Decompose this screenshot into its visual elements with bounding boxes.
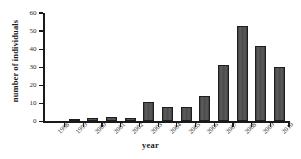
x-tick: 2009: [270, 123, 271, 127]
x-tick: 2008: [251, 123, 252, 127]
bar: [125, 118, 136, 122]
x-tick: 2001: [120, 123, 121, 127]
y-tick: 10: [39, 103, 43, 104]
bar: [181, 107, 192, 121]
bar-chart-figure: number of individuals 0102030405060 1998…: [0, 0, 301, 159]
y-tick-label: 10: [30, 100, 37, 107]
y-tick-label: 60: [30, 10, 37, 17]
y-tick-label: 30: [30, 64, 37, 71]
bar: [237, 26, 248, 122]
y-axis-line: [43, 13, 45, 123]
y-tick-label: 40: [30, 46, 37, 53]
y-tick: 20: [39, 85, 43, 86]
y-tick-label: 0: [33, 118, 37, 125]
y-axis-title: number of individuals: [10, 5, 20, 117]
x-axis-title: year: [0, 140, 301, 150]
bar: [87, 118, 98, 122]
x-tick: 1999: [83, 123, 84, 127]
x-tick: 1998: [64, 123, 65, 127]
y-tick: 0: [39, 121, 43, 122]
x-tick: 2005: [195, 123, 196, 127]
plot-area: 0102030405060 19981999200020012002200320…: [43, 13, 290, 123]
bar: [274, 67, 285, 121]
bar: [255, 46, 266, 122]
y-tick: 50: [39, 30, 43, 31]
x-tick: 2000: [101, 123, 102, 127]
x-tick: 2003: [158, 123, 159, 127]
bar: [199, 96, 210, 121]
bar: [69, 119, 80, 121]
bar: [162, 107, 173, 121]
y-tick: 30: [39, 67, 43, 68]
bar: [106, 117, 117, 122]
y-tick: 60: [39, 12, 43, 13]
x-tick: 2010: [288, 123, 289, 127]
bar: [143, 102, 154, 122]
x-tick: 2002: [139, 123, 140, 127]
bar: [218, 65, 229, 121]
x-tick: 2004: [176, 123, 177, 127]
x-tick: 2006: [214, 123, 215, 127]
y-tick-label: 20: [30, 82, 37, 89]
y-tick: 40: [39, 49, 43, 50]
y-tick-label: 50: [30, 28, 37, 35]
x-tick: 2007: [232, 123, 233, 127]
